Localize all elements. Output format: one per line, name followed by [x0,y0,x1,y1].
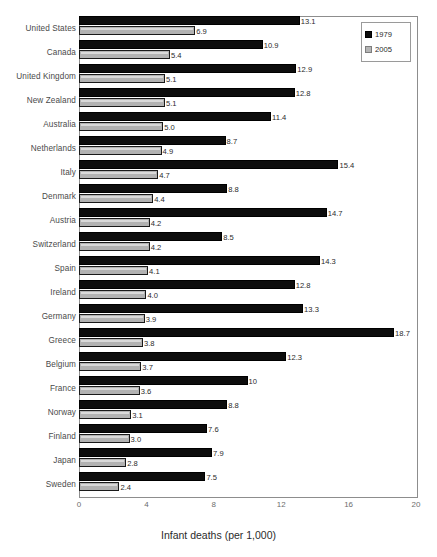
bar-value-label: 5.4 [171,50,182,59]
bar-value-label: 5.0 [164,122,175,131]
bar-2005: 4.9 [79,146,162,155]
bar-value-label: 8.7 [227,136,238,145]
gray-square-icon [365,46,372,53]
legend-label-2005: 2005 [375,45,392,54]
bar-2005: 4.7 [79,170,158,179]
bar-1979: 8.8 [79,400,227,409]
category-label: Switzerland [33,240,76,249]
bar-row: Spain14.34.1 [79,256,416,280]
bar-2005: 4.2 [79,242,150,251]
bar-row: Denmark8.84.4 [79,184,416,208]
bar-1979: 15.4 [79,160,338,169]
bar-value-label: 3.8 [144,338,155,347]
bar-value-label: 4.2 [151,218,162,227]
category-label: France [50,384,76,393]
x-tick-label: 16 [344,500,353,509]
bar-row: Austria14.74.2 [79,208,416,232]
bar-2005: 4.1 [79,266,148,275]
bar-row: Australia11.45.0 [79,112,416,136]
bar-row: Switzerland8.54.2 [79,232,416,256]
bar-value-label: 3.6 [141,386,152,395]
bar-1979: 13.1 [79,16,300,25]
bar-row: Japan7.92.8 [79,448,416,472]
bar-value-label: 4.9 [163,146,174,155]
category-label: Canada [47,48,76,57]
bar-rows-container: United States13.16.9Canada10.95.4United … [79,16,416,496]
bar-value-label: 13.1 [301,16,316,25]
category-label: Japan [53,456,76,465]
bar-1979: 12.8 [79,88,295,97]
category-label: Belgium [46,360,76,369]
bar-row: Germany13.33.9 [79,304,416,328]
bar-1979: 8.5 [79,232,222,241]
bar-value-label: 10 [249,376,257,385]
bar-row: Belgium12.33.7 [79,352,416,376]
category-label: New Zealand [27,96,76,105]
bar-row: Netherlands8.74.9 [79,136,416,160]
bar-value-label: 4.0 [147,290,158,299]
category-label: Ireland [50,288,76,297]
bar-1979: 13.3 [79,304,303,313]
bar-value-label: 14.3 [321,256,336,265]
legend-label-1979: 1979 [375,30,392,39]
bar-row: New Zealand12.85.1 [79,88,416,112]
bar-1979: 14.3 [79,256,320,265]
bar-2005: 5.1 [79,98,165,107]
bar-1979: 12.3 [79,352,286,361]
category-label: Finland [48,432,76,441]
x-axis-title: Infant deaths (per 1,000) [0,529,437,541]
bar-value-label: 10.9 [264,40,279,49]
bar-value-label: 2.8 [127,458,138,467]
category-label: Netherlands [31,144,76,153]
bar-value-label: 18.7 [395,328,410,337]
bar-2005: 5.4 [79,50,170,59]
bar-2005: 6.9 [79,26,195,35]
bar-value-label: 3.7 [142,362,153,371]
bar-1979: 12.8 [79,280,295,289]
bar-row: France103.6 [79,376,416,400]
bar-1979: 7.9 [79,448,212,457]
bar-row: Finland7.63.0 [79,424,416,448]
bar-value-label: 15.4 [339,160,354,169]
black-square-icon [365,31,372,38]
bar-2005: 4.4 [79,194,153,203]
category-label: Spain [55,264,76,273]
bar-2005: 3.7 [79,362,141,371]
bar-1979: 7.6 [79,424,207,433]
bar-1979: 10 [79,376,248,385]
x-axis-ticks: 048121620 [79,500,416,512]
x-tick-label: 0 [77,500,81,509]
bar-value-label: 7.6 [208,424,219,433]
bar-row: Ireland12.84.0 [79,280,416,304]
x-tick-label: 12 [277,500,286,509]
bar-value-label: 14.7 [328,208,343,217]
bar-1979: 8.8 [79,184,227,193]
category-label: United Kingdom [16,72,76,81]
bar-value-label: 5.1 [166,98,177,107]
category-label: Australia [43,120,76,129]
legend-item-2005: 2005 [365,42,407,57]
bar-1979: 8.7 [79,136,226,145]
bar-value-label: 2.4 [120,482,131,491]
bar-value-label: 4.2 [151,242,162,251]
bar-row: Greece18.73.8 [79,328,416,352]
bar-row: Norway8.83.1 [79,400,416,424]
x-tick-label: 8 [212,500,216,509]
category-label: Austria [50,216,76,225]
bar-value-label: 13.3 [304,304,319,313]
bar-row: Sweden7.52.4 [79,472,416,496]
category-label: Greece [49,336,76,345]
bar-value-label: 3.1 [132,410,143,419]
bar-1979: 14.7 [79,208,327,217]
bar-2005: 3.6 [79,386,140,395]
bar-2005: 2.4 [79,482,119,491]
bar-value-label: 12.8 [296,88,311,97]
bar-row: Italy15.44.7 [79,160,416,184]
bar-2005: 3.9 [79,314,145,323]
bar-2005: 3.8 [79,338,143,347]
bar-value-label: 7.5 [206,472,217,481]
bar-value-label: 5.1 [166,74,177,83]
category-label: Norway [48,408,76,417]
bar-value-label: 12.9 [297,64,312,73]
legend-item-1979: 1979 [365,27,407,42]
